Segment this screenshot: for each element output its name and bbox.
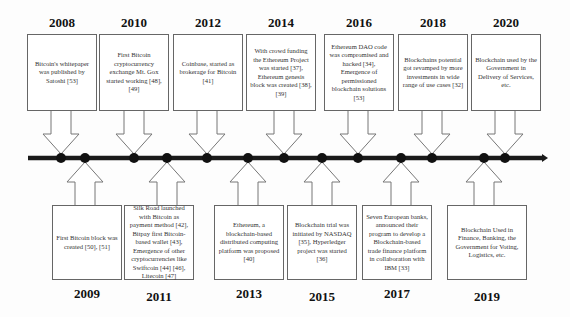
event-year: 2015: [287, 289, 357, 305]
event-box: Blockchains potential got revamped by mo…: [398, 34, 468, 111]
event-description: Seven European banks, announced their pr…: [366, 213, 428, 273]
timeline-diagram: 2008Bitcoin's whitepaper was published b…: [0, 0, 570, 317]
event-description: First Bitcoin block was created [50], [5…: [56, 234, 118, 251]
event-year: 2008: [27, 15, 97, 31]
up-arrow-icon: [230, 162, 266, 206]
event-year: 2016: [324, 15, 394, 31]
event-description: Blockchain Used in Finance, Banking, the…: [451, 226, 523, 260]
down-arrow-icon: [189, 110, 225, 154]
event-box: First Bitcoin cryptocurrency exchange Mt…: [99, 34, 169, 111]
event-description: With crowd funding the Ethereum Project …: [250, 47, 312, 98]
timeline-dot-icon: [479, 153, 489, 163]
event-box: Seven European banks, announced their pr…: [362, 205, 432, 280]
event-description: Blockchain used by the Government in Del…: [475, 56, 537, 90]
up-arrow-icon: [67, 162, 103, 206]
event-year: 2009: [52, 286, 122, 302]
event-year: 2010: [99, 15, 169, 31]
timeline-dot-icon: [129, 153, 139, 163]
event-year: 2014: [246, 15, 316, 31]
event-box: Silk Road launched with Bitcoin as payme…: [124, 205, 194, 280]
event-box: Coinbase, started as brokerage for Bitco…: [173, 34, 243, 111]
down-arrow-icon: [116, 110, 152, 154]
timeline-dot-icon: [396, 153, 406, 163]
event-year: 2017: [362, 286, 432, 302]
timeline-dot-icon: [243, 153, 253, 163]
event-year: 2018: [398, 15, 468, 31]
event-box: Blockchain trial was initiated by NASDAQ…: [287, 205, 357, 280]
event-box: First Bitcoin block was created [50], [5…: [52, 205, 122, 280]
timeline-dot-icon: [317, 153, 327, 163]
timeline-dot-icon: [427, 153, 437, 163]
timeline-dot-icon: [80, 153, 90, 163]
event-description: Blockchain trial was initiated by NASDAQ…: [291, 221, 353, 264]
event-box: Blockchain Used in Finance, Banking, the…: [447, 205, 527, 280]
event-description: Bitcoin's whitepaper was published by Sa…: [31, 60, 93, 86]
up-arrow-icon: [304, 162, 340, 206]
event-year: 2020: [471, 15, 541, 31]
event-box: Bitcoin's whitepaper was published by Sa…: [27, 34, 97, 111]
event-description: First Bitcoin cryptocurrency exchange Mt…: [103, 51, 165, 94]
timeline-dot-icon: [56, 153, 66, 163]
event-box: Ethereum DAO code was compromised and ha…: [324, 34, 394, 111]
event-year: 2019: [452, 289, 522, 305]
event-year: 2011: [124, 289, 194, 305]
event-box: Blockchain used by the Government in Del…: [471, 34, 541, 111]
down-arrow-icon: [43, 110, 79, 154]
timeline-dot-icon: [353, 153, 363, 163]
event-box: Ethereum, a blockchain-based distributed…: [214, 205, 284, 280]
event-box: With crowd funding the Ethereum Project …: [246, 34, 316, 111]
down-arrow-icon: [487, 110, 523, 154]
timeline-dot-icon: [162, 153, 172, 163]
timeline-dot-icon: [500, 153, 510, 163]
up-arrow-icon: [383, 162, 419, 206]
up-arrow-icon: [466, 162, 502, 206]
down-arrow-icon: [414, 110, 450, 154]
down-arrow-icon: [340, 110, 376, 154]
down-arrow-icon: [266, 110, 302, 154]
up-arrow-icon: [149, 162, 185, 206]
event-description: Silk Road launched with Bitcoin as payme…: [128, 204, 190, 281]
timeline-dot-icon: [202, 153, 212, 163]
event-description: Ethereum DAO code was compromised and ha…: [328, 43, 390, 103]
axis-arrowhead-icon: [542, 154, 548, 162]
event-description: Ethereum, a blockchain-based distributed…: [218, 221, 280, 264]
event-description: Blockchains potential got revamped by mo…: [402, 56, 464, 90]
event-year: 2013: [214, 286, 284, 302]
event-year: 2012: [173, 15, 243, 31]
timeline-dot-icon: [279, 153, 289, 163]
event-description: Coinbase, started as brokerage for Bitco…: [177, 60, 239, 86]
